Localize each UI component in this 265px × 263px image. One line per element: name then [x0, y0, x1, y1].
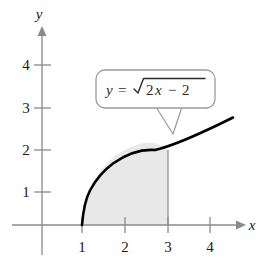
y-tick-label-4: 4 — [22, 57, 30, 73]
x-axis-label: x — [248, 217, 256, 233]
x-tick-label-2: 2 — [121, 239, 129, 255]
function-plot: 4 3 2 1 1 2 3 4 x y y = 2 x − 2 — [0, 0, 265, 263]
callout-equals: = — [118, 82, 126, 98]
callout-minus: − — [168, 82, 176, 98]
callout-lhs: y — [104, 82, 113, 98]
callout-radicand-a: 2 — [146, 82, 154, 98]
y-tick-label-2: 2 — [22, 142, 30, 158]
x-tick-label-4: 4 — [206, 239, 214, 255]
x-tick-label-1: 1 — [78, 239, 86, 255]
x-axis-arrow-icon — [236, 221, 246, 230]
y-axis-label: y — [34, 6, 43, 22]
callout-tail — [156, 107, 182, 134]
shaded-region-fill — [82, 150, 168, 225]
x-tick-label-3: 3 — [164, 239, 172, 255]
y-tick-label-1: 1 — [22, 184, 30, 200]
figure-container: 4 3 2 1 1 2 3 4 x y y = 2 x − 2 — [0, 0, 265, 263]
y-axis-arrow-icon — [38, 26, 47, 36]
callout-radicand-b: 2 — [182, 82, 190, 98]
callout-radicand-var: x — [154, 82, 162, 98]
y-tick-label-3: 3 — [22, 100, 30, 116]
